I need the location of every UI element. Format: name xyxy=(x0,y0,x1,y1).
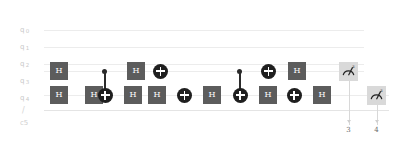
control-dot-q3-1[interactable] xyxy=(102,69,107,74)
gate-h-q4-0[interactable]: H xyxy=(50,86,68,104)
meter-icon: z xyxy=(341,64,356,79)
classical-register-slash: / xyxy=(22,107,25,115)
gate-measure-q4[interactable]: z xyxy=(367,86,386,105)
gate-x-q4-2[interactable] xyxy=(233,88,248,103)
wire-q0 xyxy=(44,30,364,31)
cbit-index-4: 4 xyxy=(367,126,386,134)
control-dot-q3-2[interactable] xyxy=(237,69,242,74)
wire-classical xyxy=(44,110,389,111)
wire-q2 xyxy=(44,64,364,65)
gate-h-q3-0[interactable]: H xyxy=(50,62,68,80)
gate-h-q4-4[interactable]: H xyxy=(203,86,221,104)
classical-register-label: c5 xyxy=(20,119,28,127)
cbit-index-3: 3 xyxy=(339,126,358,134)
gate-h-q3-2[interactable]: H xyxy=(288,62,306,80)
gate-h-q4-3[interactable]: H xyxy=(148,86,166,104)
measure-basis-z: z xyxy=(352,64,355,69)
gate-h-q3-1[interactable]: H xyxy=(127,62,145,80)
gate-x-q4-0[interactable] xyxy=(98,88,113,103)
gate-h-q4-5[interactable]: H xyxy=(259,86,277,104)
gate-x-q3-0[interactable] xyxy=(153,64,168,79)
qubit-label-q1: q1 xyxy=(20,43,29,51)
quantum-circuit-diagram: q0 q1 q2 q3 q4 / c5 H H H z 3 H H H H H … xyxy=(0,0,403,144)
meter-icon: z xyxy=(369,88,384,103)
gate-x-q4-3[interactable] xyxy=(287,88,302,103)
qubit-label-q4: q4 xyxy=(20,94,29,102)
measure-arrow-q4 xyxy=(375,120,379,123)
wire-q1 xyxy=(44,47,364,48)
qubit-label-q2: q2 xyxy=(20,60,29,68)
gate-h-q4-2[interactable]: H xyxy=(124,86,142,104)
qubit-label-q3: q3 xyxy=(20,77,29,85)
gate-h-q4-6[interactable]: H xyxy=(313,86,331,104)
measure-arrow-q3 xyxy=(347,120,351,123)
qubit-label-q0: q0 xyxy=(20,26,29,34)
measure-basis-z: z xyxy=(380,88,383,93)
gate-measure-q3[interactable]: z xyxy=(339,62,358,81)
gate-x-q4-1[interactable] xyxy=(177,88,192,103)
gate-x-q3-1[interactable] xyxy=(261,64,276,79)
wire-q3 xyxy=(44,71,364,72)
measure-drop-q3 xyxy=(349,81,350,125)
